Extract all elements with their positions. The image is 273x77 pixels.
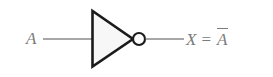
input-label: A [26,30,36,47]
overbar-icon [217,28,228,29]
equals-sign: = [201,31,211,48]
output-variable: X [186,31,196,48]
logic-gate-figure: A X = A [0,0,273,77]
output-expression-base: A [217,30,227,49]
not-gate-diagram [0,0,273,77]
gate-body-triangle [93,11,134,67]
output-label: X = A [186,30,227,48]
output-expression: A [217,30,227,48]
inversion-bubble-icon [133,33,145,45]
